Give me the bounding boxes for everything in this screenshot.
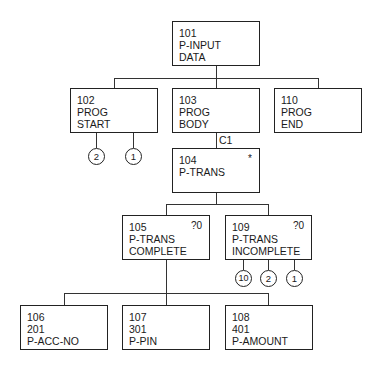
node-label: PROG bbox=[77, 106, 157, 118]
connector-109-op2 bbox=[268, 260, 269, 270]
connector-to-105 bbox=[166, 204, 167, 215]
operation-circle-2: 2 bbox=[88, 148, 105, 165]
connector-to-102 bbox=[114, 78, 115, 88]
node-label: P-PIN bbox=[129, 335, 209, 347]
connector-102-op1 bbox=[133, 133, 134, 148]
node-label: P-ACC-NO bbox=[27, 335, 107, 347]
connector-to-109 bbox=[268, 204, 269, 215]
node-code: 301 bbox=[129, 323, 209, 335]
node-code: 401 bbox=[232, 323, 312, 335]
selection-marker: ?0 bbox=[293, 220, 304, 232]
node-number: 103 bbox=[179, 94, 259, 106]
node-102-prog-start: 102 PROG START bbox=[70, 88, 158, 133]
operation-circle-10: 10 bbox=[235, 270, 252, 287]
connector-row4-bar bbox=[166, 204, 268, 205]
node-number: 108 bbox=[232, 311, 312, 323]
node-label: COMPLETE bbox=[129, 245, 209, 257]
connector-104-down bbox=[216, 193, 217, 204]
node-110-prog-end: 110 PROG END bbox=[274, 88, 362, 133]
connector-101-down bbox=[216, 66, 217, 78]
connector-to-108 bbox=[268, 293, 269, 305]
node-label: BODY bbox=[179, 118, 259, 130]
node-label: INCOMPLETE bbox=[232, 245, 311, 257]
node-101-p-input-data: 101 P-INPUT DATA bbox=[172, 21, 260, 66]
node-label: P-TRANS bbox=[232, 233, 311, 245]
node-number: 104 bbox=[179, 154, 259, 166]
node-104-p-trans: 104 P-TRANS * bbox=[172, 148, 260, 193]
node-label: P-AMOUNT bbox=[232, 335, 312, 347]
node-number: 107 bbox=[129, 311, 209, 323]
node-number: 106 bbox=[27, 311, 107, 323]
operation-circle-1: 1 bbox=[286, 270, 303, 287]
connector-to-106 bbox=[64, 293, 65, 305]
selection-marker: ?0 bbox=[191, 220, 202, 232]
node-107-p-pin: 107 301 P-PIN bbox=[122, 305, 210, 350]
node-105-p-trans-complete: 105 P-TRANS COMPLETE ?0 bbox=[122, 215, 210, 260]
node-106-p-acc-no: 106 201 P-ACC-NO bbox=[20, 305, 108, 350]
operation-circle-1: 1 bbox=[125, 148, 142, 165]
connector-to-103 bbox=[216, 78, 217, 88]
connector-103-104 bbox=[216, 133, 217, 148]
node-label: P-TRANS bbox=[179, 166, 259, 178]
node-103-prog-body: 103 PROG BODY bbox=[172, 88, 260, 133]
connector-109-op10 bbox=[243, 260, 244, 270]
iteration-marker: * bbox=[248, 153, 252, 165]
connector-102-op2 bbox=[96, 133, 97, 148]
node-109-p-trans-incomplete: 109 P-TRANS INCOMPLETE ?0 bbox=[225, 215, 312, 260]
node-label: PROG bbox=[281, 106, 361, 118]
connector-109-op1 bbox=[294, 260, 295, 270]
node-label: P-INPUT bbox=[179, 39, 259, 51]
node-label: P-TRANS bbox=[129, 233, 209, 245]
node-label: DATA bbox=[179, 51, 259, 63]
node-number: 101 bbox=[179, 27, 259, 39]
operation-circle-2: 2 bbox=[260, 270, 277, 287]
node-label: END bbox=[281, 118, 361, 130]
node-108-p-amount: 108 401 P-AMOUNT bbox=[225, 305, 313, 350]
node-label: PROG bbox=[179, 106, 259, 118]
connector-to-107 bbox=[166, 293, 167, 305]
node-number: 102 bbox=[77, 94, 157, 106]
node-label: START bbox=[77, 118, 157, 130]
connector-to-110 bbox=[318, 78, 319, 88]
node-number: 110 bbox=[281, 94, 361, 106]
node-code: 201 bbox=[27, 323, 107, 335]
condition-label-c1: C1 bbox=[219, 134, 232, 146]
connector-105-down bbox=[166, 260, 167, 293]
